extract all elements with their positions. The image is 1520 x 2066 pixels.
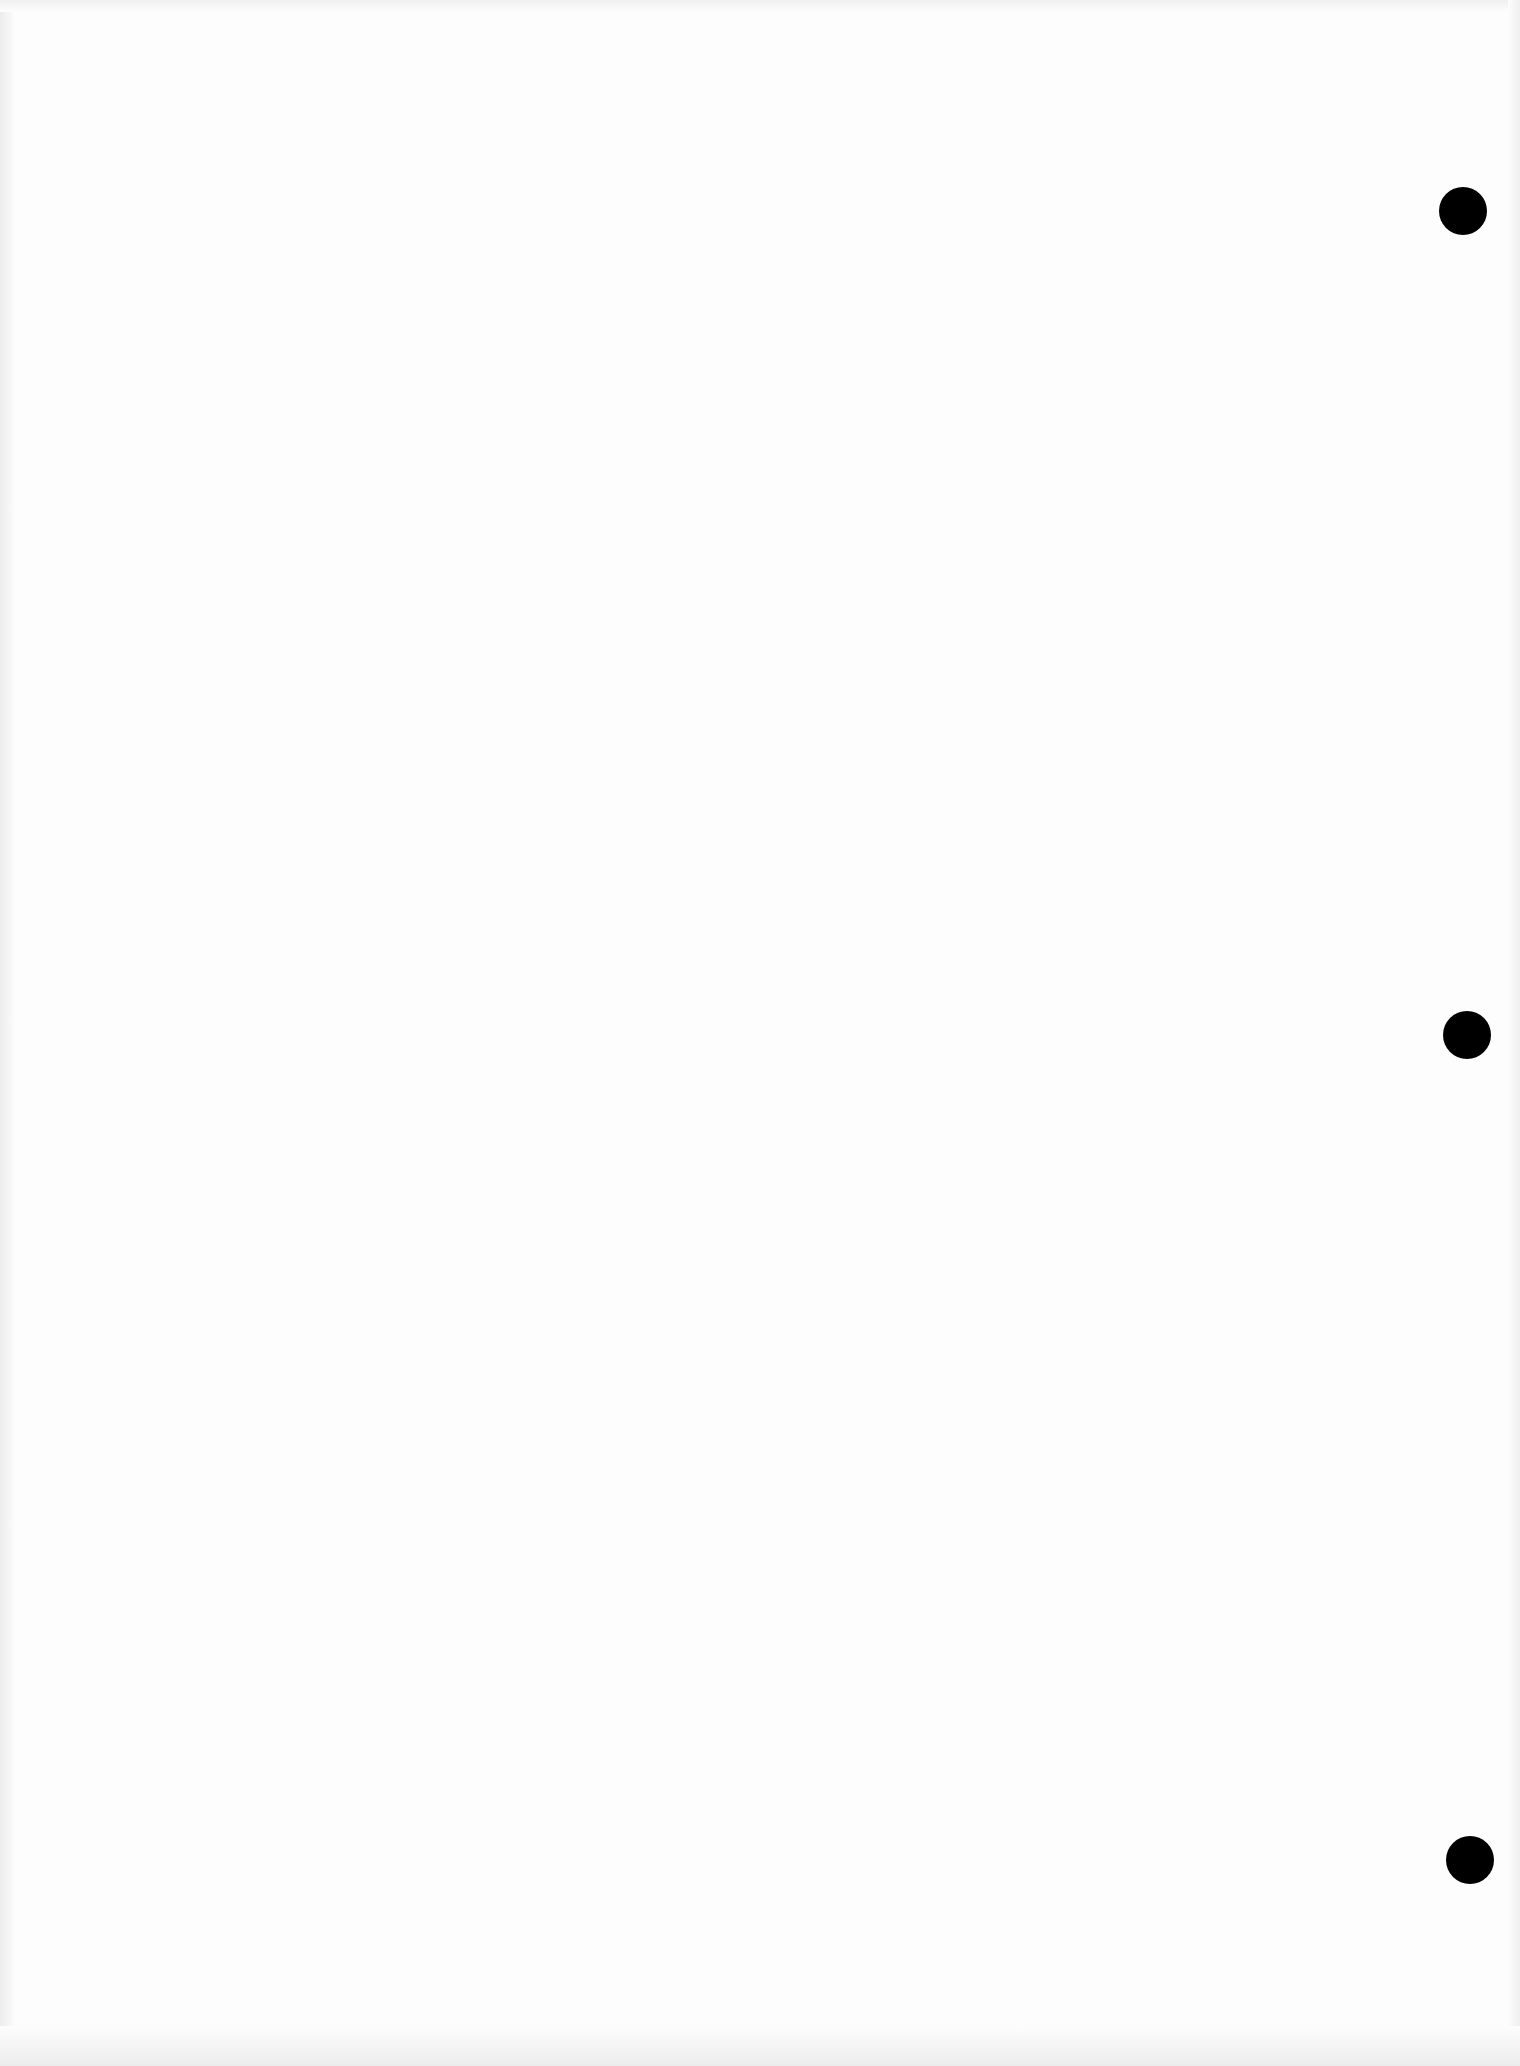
scan-edge-shadow-top xyxy=(0,0,1520,12)
punch-hole-middle xyxy=(1443,1011,1491,1059)
scan-edge-shadow-bottom xyxy=(0,2026,1520,2066)
scan-edge-shadow-left xyxy=(0,0,14,2066)
punch-hole-bottom xyxy=(1446,1836,1494,1884)
blank-scanned-page xyxy=(0,0,1520,2066)
punch-hole-top xyxy=(1439,187,1487,235)
scan-edge-shadow-right xyxy=(1508,0,1520,2066)
